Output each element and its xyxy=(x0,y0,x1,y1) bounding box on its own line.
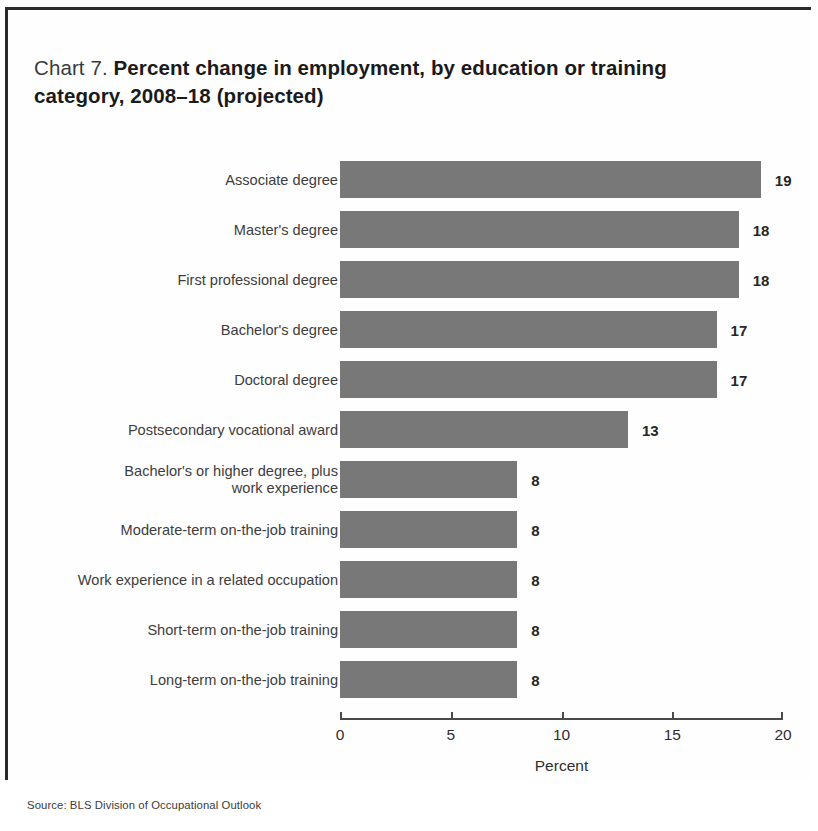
x-axis-tick-label: 5 xyxy=(431,726,471,744)
x-axis-tick xyxy=(340,712,342,719)
bar-row: Moderate-term on-the-job training8 xyxy=(0,505,818,555)
bar xyxy=(340,511,517,548)
x-axis-tick-label: 0 xyxy=(320,726,360,744)
x-axis-tick-label: 15 xyxy=(652,726,692,744)
category-label: Doctoral degree xyxy=(38,372,338,389)
category-label: Moderate-term on-the-job training xyxy=(38,522,338,539)
bar-row: Bachelor's degree17 xyxy=(0,305,818,355)
bar-value-label: 8 xyxy=(531,472,539,489)
x-axis-title: Percent xyxy=(340,757,783,775)
bar-row: Short-term on-the-job training8 xyxy=(0,605,818,655)
bar-value-label: 17 xyxy=(731,372,748,389)
bar xyxy=(340,661,517,698)
category-label: Bachelor's degree xyxy=(38,322,338,339)
bar-value-label: 18 xyxy=(753,222,770,239)
bar xyxy=(340,261,739,298)
bar-row: Master's degree18 xyxy=(0,205,818,255)
bar-row: Postsecondary vocational award13 xyxy=(0,405,818,455)
bar-row: Doctoral degree17 xyxy=(0,355,818,405)
bar xyxy=(340,561,517,598)
category-label: Work experience in a related occupation xyxy=(38,572,338,589)
category-label: Short-term on-the-job training xyxy=(38,622,338,639)
bar xyxy=(340,461,517,498)
bar-row: Bachelor's or higher degree, plus work e… xyxy=(0,455,818,505)
bar-row: Work experience in a related occupation8 xyxy=(0,555,818,605)
category-label: Bachelor's or higher degree, plus work e… xyxy=(38,463,338,497)
bar-value-label: 8 xyxy=(531,622,539,639)
x-axis-tick-label: 20 xyxy=(763,726,803,744)
category-label: Long-term on-the-job training xyxy=(38,672,338,689)
bar xyxy=(340,161,761,198)
bar-value-label: 19 xyxy=(775,172,792,189)
source-note: Source: BLS Division of Occupational Out… xyxy=(27,799,261,811)
x-axis-tick-label: 10 xyxy=(542,726,582,744)
bar-value-label: 13 xyxy=(642,422,659,439)
x-axis-tick xyxy=(451,712,453,719)
bar-value-label: 8 xyxy=(531,672,539,689)
category-label: Associate degree xyxy=(38,172,338,189)
bar-row: Long-term on-the-job training8 xyxy=(0,655,818,705)
bar-value-label: 17 xyxy=(731,322,748,339)
bar xyxy=(340,611,517,648)
bar-chart-plot-area: Associate degree19Master's degree18First… xyxy=(0,0,818,831)
bar xyxy=(340,311,717,348)
x-axis-tick xyxy=(672,712,674,719)
bar-value-label: 18 xyxy=(753,272,770,289)
category-label: First professional degree xyxy=(38,272,338,289)
bar xyxy=(340,411,628,448)
bar-row: Associate degree19 xyxy=(0,155,818,205)
x-axis-tick xyxy=(781,712,783,719)
x-axis-tick xyxy=(562,712,564,719)
bar-value-label: 8 xyxy=(531,522,539,539)
category-label: Master's degree xyxy=(38,222,338,239)
category-label: Postsecondary vocational award xyxy=(38,422,338,439)
bar xyxy=(340,211,739,248)
bar-value-label: 8 xyxy=(531,572,539,589)
bar-row: First professional degree18 xyxy=(0,255,818,305)
bar xyxy=(340,361,717,398)
